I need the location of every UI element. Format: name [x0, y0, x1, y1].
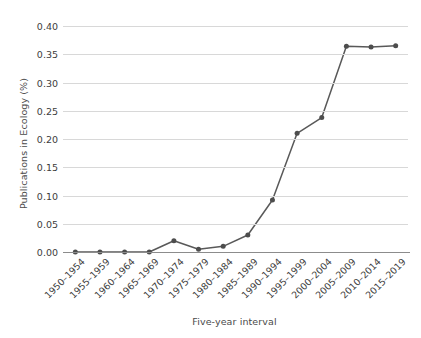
chart-figure: Publications in Ecology (%) 0.000.050.10… [0, 0, 421, 338]
x-axis-tick-labels: 1950–19541955–19591960–19641965–19691970… [0, 0, 421, 338]
x-axis-title: Five-year interval [0, 316, 421, 327]
x-axis-title-text: Five-year interval [144, 316, 276, 327]
